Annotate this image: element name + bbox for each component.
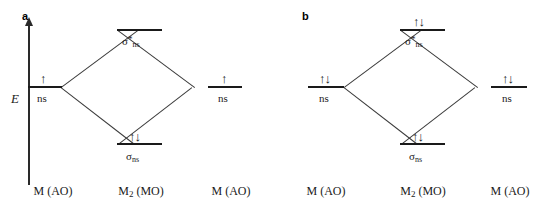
electrons-antibonding: ↑↓ (413, 15, 424, 28)
level-antibonding-sigma-star (400, 29, 445, 31)
panel-b: b ↑↓ σ*ns ↑↓ ns ↑↓ ns ↑↓ σns M (AO) M2 (… (271, 0, 543, 211)
caption-center-mo: M2 (MO) (390, 185, 456, 198)
label-left-atomic-ns: ns (319, 93, 329, 104)
label-bonding-sigma: σns (126, 151, 139, 163)
caption-left-ao: M (AO) (22, 185, 84, 197)
caption-right-ao: M (AO) (479, 185, 541, 197)
level-left-atomic-orbital (308, 86, 344, 88)
caption-center-mo: M2 (MO) (108, 185, 174, 198)
label-right-atomic-ns: ns (502, 93, 512, 104)
electrons-right-atomic: ↑ (221, 72, 227, 85)
tie-left-ao-to-bonding (60, 87, 134, 144)
energy-axis-line (28, 25, 30, 185)
mo-energy-diagram-figure: a E σ*ns ↑ ns ↑ ns ↑↓ σns (0, 0, 543, 211)
caption-left-ao: M (AO) (295, 185, 357, 197)
panel-a: a E σ*ns ↑ ns ↑ ns ↑↓ σns (0, 0, 272, 211)
label-left-atomic-ns: ns (37, 93, 47, 104)
level-antibonding-sigma-star (117, 29, 162, 31)
energy-axis-label: E (11, 92, 19, 105)
label-right-atomic-ns: ns (218, 93, 228, 104)
level-right-atomic-orbital (491, 86, 527, 88)
level-right-atomic-orbital (208, 86, 242, 88)
ns-subscript: ns (415, 40, 422, 49)
electrons-left-atomic: ↑ (40, 72, 46, 85)
label-bonding-sigma: σns (409, 151, 422, 163)
electrons-left-atomic: ↑↓ (319, 72, 330, 85)
tie-left-ao-to-bonding (343, 87, 417, 144)
ns-subscript: ns (415, 155, 422, 164)
label-antibonding-sigma-star: σ*ns (405, 36, 423, 48)
electrons-bonding: ↑↓ (129, 130, 140, 143)
label-antibonding-sigma-star: σ*ns (122, 36, 140, 48)
ns-subscript: ns (132, 155, 139, 164)
panel-b-label: b (302, 11, 309, 22)
electrons-bonding: ↑↓ (412, 130, 423, 143)
caption-right-ao: M (AO) (200, 185, 262, 197)
ns-subscript: ns (132, 40, 139, 49)
level-left-atomic-orbital (28, 86, 62, 88)
electrons-right-atomic: ↑↓ (502, 72, 513, 85)
